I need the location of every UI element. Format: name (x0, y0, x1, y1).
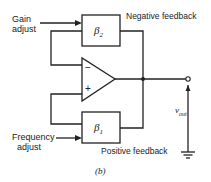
beta1-label: β1 (94, 122, 103, 137)
minus-input-label: − (85, 63, 91, 73)
vout-label: vout (175, 105, 187, 119)
gain-line2: adjust (12, 24, 36, 34)
negative-feedback-label: Negative feedback (126, 11, 196, 21)
plus-input-label: + (85, 84, 91, 94)
gain-arrow-icon (75, 20, 82, 26)
freq-arrow-icon (75, 135, 82, 141)
freq-line2: adjust (12, 142, 55, 152)
junction-dot (141, 77, 145, 81)
frequency-adjust-label: Frequency adjust (12, 132, 55, 152)
gain-adjust-label: Gain adjust (12, 14, 36, 34)
beta1-subscript: 1 (99, 128, 103, 136)
output-terminal (186, 77, 190, 81)
beta2-subscript: 2 (99, 31, 103, 39)
vout-subscript: out (179, 111, 187, 117)
beta2-label: β2 (94, 25, 103, 40)
gain-line1: Gain (12, 14, 36, 24)
positive-feedback-label: Positive feedback (101, 146, 168, 156)
figure-caption: (b) (95, 166, 106, 176)
vout-arrow-icon (186, 85, 191, 91)
freq-line1: Frequency (12, 132, 55, 142)
